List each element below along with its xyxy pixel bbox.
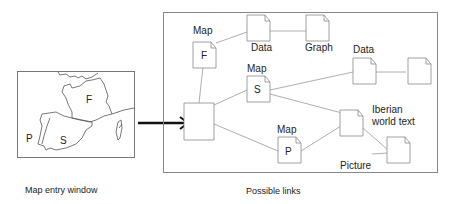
map-region-spain[interactable]: S [60,135,67,146]
map-region-portugal[interactable]: P [26,133,33,144]
doc-icon-iberian[interactable] [340,110,363,136]
node-letter-f: F [201,50,207,61]
diagram-canvas [0,0,455,204]
node-letter-p: P [285,146,292,157]
node-label-graph: Graph [305,42,333,53]
map-window-frame [18,72,135,158]
node-label-data-2: Data [353,44,374,55]
node-label-map-s: Map [247,63,266,74]
link-edges [199,31,406,154]
doc-icon-data-2[interactable] [353,58,376,84]
doc-icon-graph[interactable] [306,15,329,41]
map-window-caption: Map entry window [25,185,98,195]
node-label-data-1: Data [251,42,272,53]
node-label-iberian-1: Iberian [372,104,403,115]
node-label-map-p: Map [277,124,296,135]
doc-icon-picture[interactable] [387,137,410,163]
doc-icon-root[interactable] [184,103,214,140]
node-letter-s: S [254,84,261,95]
links-panel-caption: Possible links [246,186,301,196]
node-label-map-f: Map [193,25,212,36]
node-label-picture: Picture [340,160,371,171]
map-region-france[interactable]: F [86,94,92,105]
node-label-iberian-2: world text [372,116,415,127]
doc-icon-data-2b[interactable] [408,58,431,84]
doc-icon-data-1[interactable] [247,15,270,41]
